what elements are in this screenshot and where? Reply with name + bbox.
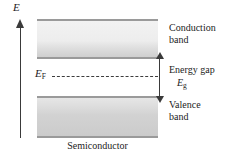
energy-gap-arrow	[159, 58, 160, 97]
energy-gap-arrowhead-down-icon	[156, 96, 164, 103]
conduction-band-fill	[37, 21, 158, 57]
energy-axis-label: E	[13, 2, 20, 13]
energy-gap-label-text: Energy gap	[169, 64, 215, 75]
fermi-symbol: E	[35, 67, 42, 79]
conduction-band-label: Conduction band	[169, 22, 216, 45]
fermi-level-label: EF	[35, 68, 46, 79]
valence-band-label: Valence band	[169, 99, 201, 122]
fermi-subscript: F	[42, 72, 46, 81]
conduction-band-rect	[37, 19, 158, 59]
conduction-band-label-line2: band	[169, 34, 188, 45]
fermi-level-dashed-line	[52, 76, 158, 77]
energy-axis-line	[20, 25, 21, 138]
valence-band-label-line1: Valence	[169, 99, 201, 110]
semiconductor-band-diagram: E EF Conduction band Energy gap Eg Valen…	[0, 0, 228, 156]
energy-gap-symbol-group: Eg	[169, 76, 215, 90]
energy-gap-label: Energy gap Eg	[169, 64, 215, 90]
energy-gap-arrowhead-up-icon	[156, 52, 164, 59]
conduction-band-bottom-edge	[37, 57, 158, 59]
conduction-band-label-line1: Conduction	[169, 22, 216, 33]
energy-gap-subscript: g	[183, 81, 187, 90]
valence-band-label-line2: band	[169, 111, 188, 122]
material-caption: Semiconductor	[37, 140, 158, 152]
valence-band-bottom-edge	[37, 136, 158, 138]
valence-band-rect	[37, 96, 158, 138]
valence-band-fill	[37, 98, 158, 136]
